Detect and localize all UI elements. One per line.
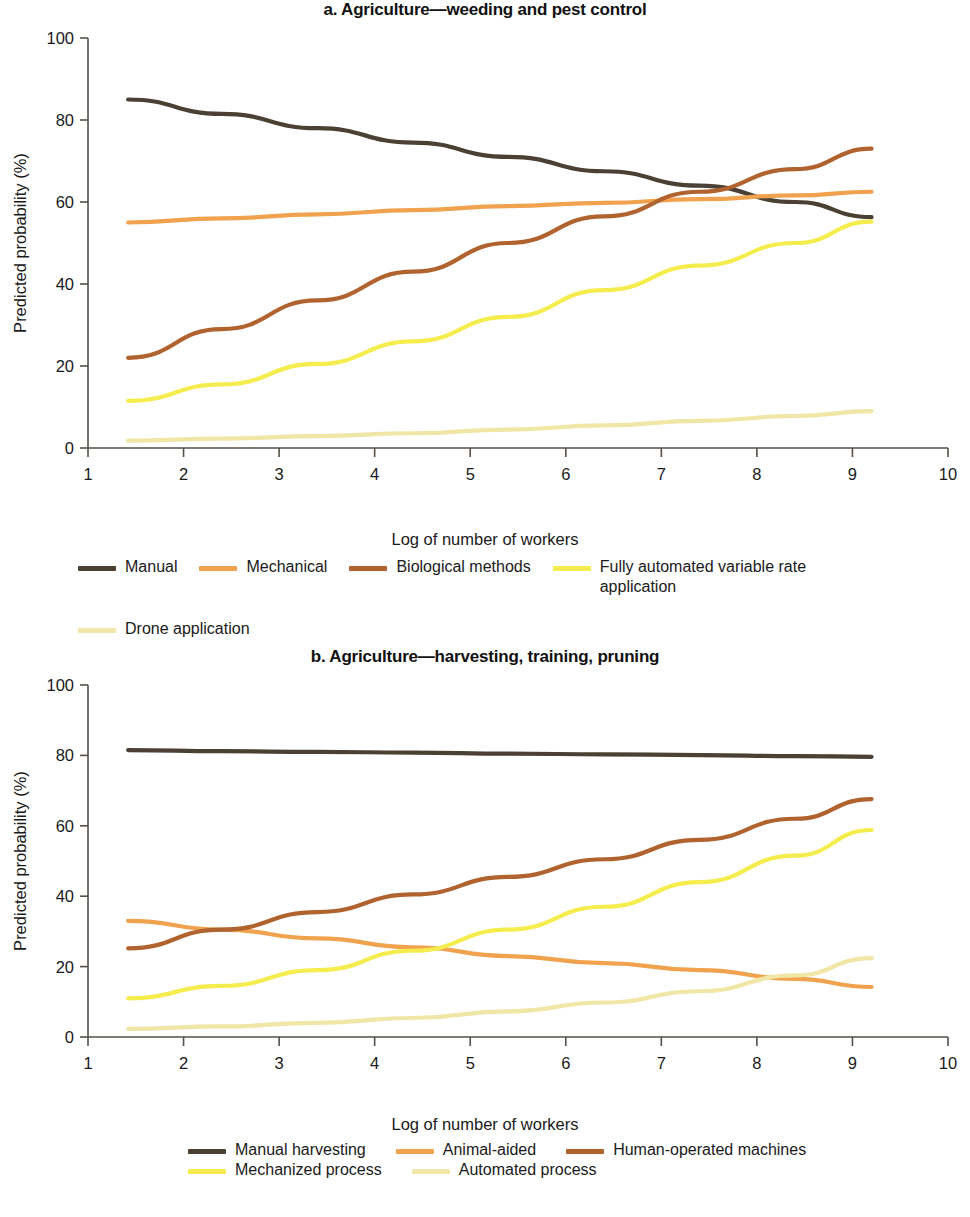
legend-label: Animal-aided xyxy=(443,1140,536,1160)
series-line xyxy=(128,100,871,218)
panel-b-title: b. Agriculture—harvesting, training, pru… xyxy=(0,647,970,667)
legend-label: Manual xyxy=(125,557,177,577)
series-line xyxy=(128,958,871,1029)
series-line xyxy=(128,750,871,757)
panel-a-x-axis-title: Log of number of workers xyxy=(0,530,970,549)
panel-b-legend: Manual harvestingAnimal-aidedHuman-opera… xyxy=(0,1140,888,1180)
legend-item[interactable]: Manual harvesting xyxy=(188,1140,366,1160)
x-tick-label: 6 xyxy=(561,465,570,483)
legend-label: Automated process xyxy=(459,1160,597,1180)
series-line xyxy=(128,222,871,401)
legend-swatch-icon xyxy=(199,566,237,571)
x-tick-label: 7 xyxy=(657,1054,666,1072)
panel-a-legend: ManualMechanicalBiological methodsFully … xyxy=(0,557,970,639)
legend-swatch-icon xyxy=(553,566,591,571)
legend-swatch-icon xyxy=(396,1149,434,1154)
x-tick-label: 3 xyxy=(275,1054,284,1072)
x-tick-label: 1 xyxy=(83,1054,92,1072)
x-tick-label: 2 xyxy=(179,1054,188,1072)
legend-label: Human-operated machines xyxy=(613,1140,806,1160)
x-tick-label: 1 xyxy=(83,465,92,483)
y-tick-label: 80 xyxy=(56,111,74,129)
x-tick-label: 8 xyxy=(752,465,761,483)
y-tick-label: 0 xyxy=(65,439,74,457)
x-tick-label: 10 xyxy=(939,465,957,483)
x-tick-label: 6 xyxy=(561,1054,570,1072)
x-tick-label: 9 xyxy=(848,465,857,483)
series-line xyxy=(128,411,871,441)
panel-a-title: a. Agriculture—weeding and pest control xyxy=(0,0,970,20)
legend-item[interactable]: Mechanical xyxy=(199,557,327,597)
panel-b: b. Agriculture—harvesting, training, pru… xyxy=(0,647,970,1180)
panel-a-chart: 02040608010012345678910Predicted probabi… xyxy=(0,20,970,530)
y-tick-label: 40 xyxy=(56,275,74,293)
y-tick-label: 20 xyxy=(56,357,74,375)
legend-item[interactable]: Automated process xyxy=(412,1160,597,1180)
panel-a: a. Agriculture—weeding and pest control … xyxy=(0,0,970,639)
legend-label: Drone application xyxy=(125,619,250,639)
panel-a-plot-area: 02040608010012345678910Predicted probabi… xyxy=(0,20,970,530)
y-tick-label: 60 xyxy=(56,817,74,835)
legend-swatch-icon xyxy=(78,566,116,571)
legend-item[interactable]: Fully automated variable rate applicatio… xyxy=(553,557,810,597)
legend-item[interactable]: Biological methods xyxy=(349,557,530,597)
legend-swatch-icon xyxy=(349,566,387,571)
x-tick-label: 3 xyxy=(275,465,284,483)
y-tick-label: 20 xyxy=(56,958,74,976)
y-tick-label: 100 xyxy=(46,676,74,694)
legend-item[interactable]: Human-operated machines xyxy=(566,1140,806,1160)
legend-item[interactable]: Drone application xyxy=(78,619,250,639)
y-tick-label: 0 xyxy=(65,1028,74,1046)
x-tick-label: 7 xyxy=(657,465,666,483)
x-tick-label: 5 xyxy=(466,465,475,483)
x-tick-label: 8 xyxy=(752,1054,761,1072)
panel-b-plot-area: 02040608010012345678910Predicted probabi… xyxy=(0,667,970,1115)
x-tick-label: 5 xyxy=(466,1054,475,1072)
series-line xyxy=(128,192,871,223)
x-tick-label: 2 xyxy=(179,465,188,483)
y-tick-label: 60 xyxy=(56,193,74,211)
legend-swatch-icon xyxy=(412,1169,450,1174)
legend-label: Mechanized process xyxy=(235,1160,382,1180)
x-tick-label: 9 xyxy=(848,1054,857,1072)
legend-label: Biological methods xyxy=(396,557,530,577)
legend-swatch-icon xyxy=(188,1169,226,1174)
panel-b-x-axis-title: Log of number of workers xyxy=(0,1115,970,1134)
y-axis-title: Predicted probability (%) xyxy=(11,153,29,333)
x-tick-label: 4 xyxy=(370,465,379,483)
legend-swatch-icon xyxy=(78,628,116,633)
y-tick-label: 80 xyxy=(56,746,74,764)
legend-label: Mechanical xyxy=(246,557,327,577)
legend-swatch-icon xyxy=(566,1149,604,1154)
legend-item[interactable]: Animal-aided xyxy=(396,1140,536,1160)
legend-swatch-icon xyxy=(188,1149,226,1154)
series-line xyxy=(128,149,871,358)
series-line xyxy=(128,799,871,948)
x-tick-label: 10 xyxy=(939,1054,957,1072)
y-tick-label: 40 xyxy=(56,887,74,905)
panel-b-chart: 02040608010012345678910Predicted probabi… xyxy=(0,667,970,1115)
legend-item[interactable]: Manual xyxy=(78,557,177,597)
legend-label: Fully automated variable rate applicatio… xyxy=(600,557,810,597)
y-axis-title: Predicted probability (%) xyxy=(11,771,29,951)
series-line xyxy=(128,830,871,998)
legend-label: Manual harvesting xyxy=(235,1140,366,1160)
x-tick-label: 4 xyxy=(370,1054,379,1072)
y-tick-label: 100 xyxy=(46,29,74,47)
legend-item[interactable]: Mechanized process xyxy=(188,1160,382,1180)
